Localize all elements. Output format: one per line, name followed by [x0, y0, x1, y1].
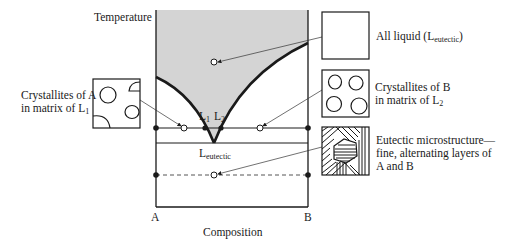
leader-crystallites-a: [140, 100, 181, 126]
y-axis-label: Temperature: [94, 11, 152, 24]
microstructure-a-box: [93, 79, 140, 128]
dot: [305, 125, 311, 131]
dot: [202, 125, 207, 130]
dot: [218, 125, 223, 130]
state-point-b: [257, 125, 263, 131]
dot: [305, 172, 311, 178]
microstructure-b-box: [322, 70, 369, 117]
x-axis-label: Composition: [203, 226, 262, 239]
dot: [153, 172, 159, 178]
microstructure-eutectic-box: [322, 127, 369, 175]
callout-crystallites-b: Crystallites of B in matrix of L2: [375, 81, 450, 110]
state-point-liquid: [211, 59, 217, 65]
x-axis-left-label: A: [151, 211, 159, 224]
microstructure-liquid-box: [322, 12, 369, 59]
callout-liquid: All liquid (Leutectic): [376, 30, 463, 46]
phase-label-eutectic: Leutectic: [199, 147, 231, 163]
leader-crystallites-b: [263, 90, 322, 126]
dot: [153, 125, 159, 131]
leader-eutectic: [218, 147, 322, 174]
callout-crystallites-a: Crystallites of A in matrix of L1: [21, 89, 96, 118]
phase-label-l1: L1: [199, 110, 210, 126]
phase-label-l2: L2: [214, 110, 225, 126]
state-point-eutectic: [211, 172, 217, 178]
x-axis-right-label: B: [304, 211, 312, 224]
callout-eutectic-microstructure: Eutectic microstructure— fine, alternati…: [376, 134, 495, 173]
liquid-region: [156, 10, 308, 143]
state-point-a: [181, 125, 187, 131]
